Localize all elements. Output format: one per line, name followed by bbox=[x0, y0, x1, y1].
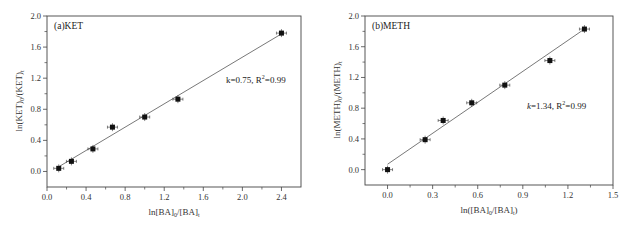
svg-text:0.3: 0.3 bbox=[427, 190, 438, 200]
y-axis-label: ln(METH)0/(METH)t bbox=[332, 61, 343, 139]
data-point bbox=[279, 31, 284, 36]
data-point bbox=[582, 27, 587, 32]
svg-text:1.2: 1.2 bbox=[348, 72, 359, 82]
svg-text:0.8: 0.8 bbox=[30, 104, 41, 114]
data-point bbox=[385, 167, 390, 172]
chart-panel-ket: 0.00.40.81.21.62.02.4 0.00.40.81.21.62.0… bbox=[14, 11, 301, 218]
data-point bbox=[469, 100, 474, 105]
data-point bbox=[56, 166, 61, 171]
data-point bbox=[142, 115, 147, 120]
svg-text:1.2: 1.2 bbox=[563, 190, 574, 200]
plot-frame bbox=[47, 16, 301, 187]
data-point bbox=[110, 125, 115, 130]
svg-text:1.5: 1.5 bbox=[608, 190, 619, 200]
svg-text:1.2: 1.2 bbox=[159, 192, 170, 202]
data-point bbox=[175, 97, 180, 102]
x-axis-label: ln([BA]0/[BA]t) bbox=[460, 205, 517, 216]
x-axis-ticks: 0.00.40.81.21.62.02.4 bbox=[42, 187, 288, 202]
svg-text:0.4: 0.4 bbox=[81, 192, 92, 202]
data-point bbox=[69, 159, 74, 164]
data-point bbox=[423, 137, 428, 142]
data-point bbox=[90, 146, 95, 151]
svg-text:2.0: 2.0 bbox=[237, 192, 248, 202]
data-point bbox=[502, 83, 507, 88]
svg-text:0.8: 0.8 bbox=[120, 192, 131, 202]
svg-text:0.4: 0.4 bbox=[30, 135, 41, 145]
panel-label: (a)KET bbox=[54, 21, 83, 32]
panel-label: (b)METH bbox=[372, 21, 410, 32]
svg-text:2.4: 2.4 bbox=[276, 192, 287, 202]
svg-text:0.0: 0.0 bbox=[382, 190, 393, 200]
x-axis-label: ln[BA]0/[BA]t bbox=[148, 207, 200, 218]
svg-text:1.2: 1.2 bbox=[30, 73, 41, 83]
svg-text:0.4: 0.4 bbox=[348, 134, 359, 144]
svg-text:0.0: 0.0 bbox=[30, 166, 41, 176]
y-axis-label: ln(KET)0/(KET)t bbox=[14, 70, 25, 132]
x-axis-ticks: 0.00.30.60.91.21.5 bbox=[382, 185, 618, 200]
fit-annotation: k=1.34, R2=0.99 bbox=[527, 100, 587, 111]
chart-panel-meth: 0.00.30.60.91.21.5 0.00.40.81.21.62.0 (b… bbox=[332, 11, 618, 216]
svg-text:1.6: 1.6 bbox=[30, 42, 41, 52]
svg-text:0.6: 0.6 bbox=[472, 190, 483, 200]
y-axis-ticks: 0.00.40.81.21.62.0 bbox=[30, 11, 47, 176]
y-axis-ticks: 0.00.40.81.21.62.0 bbox=[348, 11, 365, 175]
svg-text:1.6: 1.6 bbox=[348, 42, 359, 52]
svg-text:0.0: 0.0 bbox=[42, 192, 53, 202]
svg-text:0.9: 0.9 bbox=[518, 190, 529, 200]
svg-text:2.0: 2.0 bbox=[30, 11, 41, 21]
figure: 0.00.40.81.21.62.02.4 0.00.40.81.21.62.0… bbox=[0, 0, 629, 229]
svg-text:2.0: 2.0 bbox=[348, 11, 359, 21]
fit-annotation: k=0.75, R2=0.99 bbox=[226, 74, 286, 85]
fit-line bbox=[388, 29, 585, 164]
svg-text:0.0: 0.0 bbox=[348, 165, 359, 175]
svg-text:0.8: 0.8 bbox=[348, 103, 359, 113]
data-point bbox=[547, 58, 552, 63]
data-point bbox=[441, 118, 446, 123]
svg-text:1.6: 1.6 bbox=[198, 192, 209, 202]
